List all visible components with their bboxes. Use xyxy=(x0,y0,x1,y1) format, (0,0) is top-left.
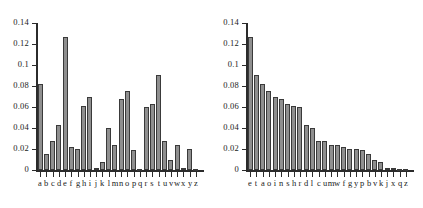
bar xyxy=(310,128,315,170)
bar xyxy=(119,99,124,170)
bar xyxy=(50,141,55,170)
x-axis-tick xyxy=(375,172,376,177)
x-axis-tick xyxy=(319,172,320,177)
x-axis-tick xyxy=(109,172,110,177)
x-axis-tick-label: z xyxy=(190,179,202,188)
x-axis-line xyxy=(36,170,204,172)
bar xyxy=(187,149,192,170)
y-axis-tick xyxy=(32,149,36,150)
x-axis-tick xyxy=(183,172,184,177)
bar xyxy=(175,145,180,170)
x-axis-tick xyxy=(331,172,332,177)
bar xyxy=(38,84,43,170)
letter-frequency-figure: 00.020.040.060.080.10.120.14abcdefghijkl… xyxy=(0,0,423,208)
y-axis-tick-label: 0.14 xyxy=(3,18,29,27)
y-axis-tick xyxy=(32,128,36,129)
x-axis-tick xyxy=(146,172,147,177)
bar xyxy=(131,150,136,170)
y-axis-tick-label: 0 xyxy=(3,165,29,174)
bar xyxy=(162,141,167,170)
x-axis-tick xyxy=(406,172,407,177)
x-axis-tick xyxy=(59,172,60,177)
y-axis-tick xyxy=(32,86,36,87)
bar xyxy=(87,97,92,170)
bar xyxy=(125,91,130,170)
bar xyxy=(297,107,302,170)
y-axis-tick xyxy=(242,23,246,24)
bar xyxy=(391,168,396,170)
bar xyxy=(385,168,390,170)
y-axis-tick xyxy=(242,149,246,150)
x-axis-tick xyxy=(171,172,172,177)
bar xyxy=(69,147,74,170)
x-axis-tick xyxy=(344,172,345,177)
bar xyxy=(322,141,327,170)
x-axis-tick xyxy=(393,172,394,177)
bar xyxy=(403,169,408,171)
x-axis-tick xyxy=(134,172,135,177)
bar xyxy=(329,145,334,170)
x-axis-tick xyxy=(256,172,257,177)
bar xyxy=(304,125,309,170)
y-axis-tick-label: 0.08 xyxy=(3,81,29,90)
x-axis-tick xyxy=(387,172,388,177)
y-axis-tick-label: 0.06 xyxy=(3,102,29,111)
y-axis-tick-label: 0.12 xyxy=(213,39,239,48)
bar xyxy=(150,104,155,170)
chart-panel-alphabetical: 00.020.040.060.080.10.120.14abcdefghijkl… xyxy=(0,0,212,208)
bar xyxy=(316,141,321,170)
x-axis-tick xyxy=(190,172,191,177)
y-axis-tick xyxy=(242,86,246,87)
x-axis-tick xyxy=(78,172,79,177)
x-axis-tick xyxy=(400,172,401,177)
bar xyxy=(137,169,142,171)
bar xyxy=(291,106,296,170)
x-axis-tick xyxy=(159,172,160,177)
bar xyxy=(106,128,111,170)
bar xyxy=(285,104,290,170)
y-axis-tick xyxy=(242,107,246,108)
bar xyxy=(181,168,186,170)
x-axis-tick xyxy=(140,172,141,177)
bar xyxy=(335,145,340,170)
x-axis-tick-label: z xyxy=(400,179,412,188)
bar xyxy=(100,162,105,170)
bar xyxy=(354,149,359,170)
bar xyxy=(273,97,278,170)
bar xyxy=(279,99,284,170)
x-axis-tick xyxy=(115,172,116,177)
x-axis-tick xyxy=(306,172,307,177)
x-axis-tick xyxy=(250,172,251,177)
x-axis-tick xyxy=(71,172,72,177)
y-axis-tick xyxy=(242,44,246,45)
bar xyxy=(168,160,173,170)
x-axis-tick xyxy=(369,172,370,177)
x-axis-tick xyxy=(152,172,153,177)
bar xyxy=(248,37,253,170)
x-axis-tick xyxy=(288,172,289,177)
x-axis-tick xyxy=(300,172,301,177)
y-axis-tick xyxy=(242,65,246,66)
x-axis-tick xyxy=(127,172,128,177)
y-axis-tick xyxy=(32,23,36,24)
bar xyxy=(347,149,352,170)
bar xyxy=(63,37,68,170)
x-axis-tick xyxy=(102,172,103,177)
x-axis-tick xyxy=(84,172,85,177)
y-axis-tick-label: 0.08 xyxy=(213,81,239,90)
y-axis-tick-label: 0.1 xyxy=(3,60,29,69)
y-axis-tick xyxy=(242,170,246,171)
x-axis-tick xyxy=(337,172,338,177)
y-axis-tick-label: 0 xyxy=(213,165,239,174)
chart-panel-sorted: 00.020.040.060.080.10.120.14etaoinshrdlc… xyxy=(211,0,423,208)
bar xyxy=(193,169,198,171)
bar xyxy=(81,106,86,170)
x-axis-tick xyxy=(165,172,166,177)
y-axis-tick-label: 0.14 xyxy=(213,18,239,27)
x-axis-tick xyxy=(350,172,351,177)
bar xyxy=(397,169,402,171)
x-axis-tick xyxy=(177,172,178,177)
bar xyxy=(366,154,371,170)
y-axis-tick xyxy=(32,170,36,171)
x-axis-tick xyxy=(294,172,295,177)
